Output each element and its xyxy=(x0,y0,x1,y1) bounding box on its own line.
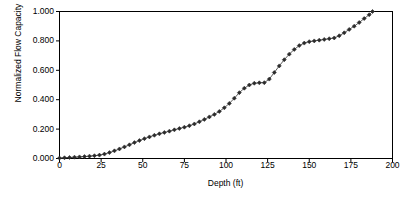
plot-area xyxy=(0,0,408,199)
normalized-flow-capacity-chart: Normalized Flow Capacity 0.0000.2000.400… xyxy=(0,0,408,199)
